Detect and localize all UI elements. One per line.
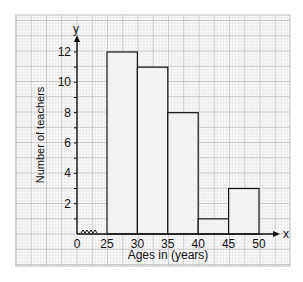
bar-45-50	[229, 189, 259, 235]
bar-35-40	[168, 113, 198, 234]
y-tick-label: 2	[64, 197, 71, 211]
x-tick-label: 0	[74, 237, 81, 251]
bar-40-45	[198, 219, 228, 234]
y-tick-label: 8	[64, 106, 71, 120]
x-axis-label: Ages in (years)	[128, 248, 209, 262]
y-axis-letter: y	[73, 22, 79, 36]
y-tick-label: 4	[64, 166, 71, 180]
bar-25-30	[107, 52, 137, 234]
x-tick-label: 25	[100, 237, 114, 251]
x-tick-label: 45	[222, 237, 236, 251]
y-tick-label: 6	[64, 136, 71, 150]
bar-30-35	[137, 67, 167, 234]
y-axis-label: Number of teachers	[34, 86, 46, 183]
histogram-chart: 025303540455024681012 x y Ages in (years…	[0, 0, 303, 282]
y-tick-label: 12	[58, 45, 72, 59]
x-tick-label: 50	[252, 237, 266, 251]
x-axis-letter: x	[283, 227, 289, 241]
y-tick-label: 10	[58, 75, 72, 89]
